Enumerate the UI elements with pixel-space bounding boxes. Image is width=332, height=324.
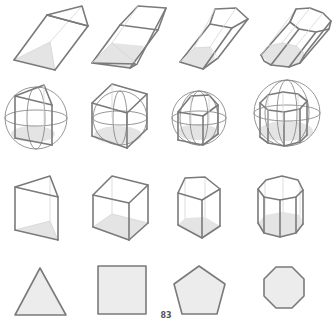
page-number: 83	[0, 311, 332, 320]
triangular-prism-in-sphere	[5, 85, 67, 149]
geometric-solids-figure	[0, 0, 332, 324]
oblique-octagonal-prism	[261, 8, 331, 67]
oblique-triangular-prism	[14, 6, 88, 70]
triangle-base	[15, 268, 66, 315]
square-base	[98, 266, 146, 314]
right-pentagonal-prism	[178, 177, 220, 238]
octagon-base	[264, 267, 304, 308]
right-octagonal-prism	[258, 176, 303, 237]
oblique-square-prism	[92, 6, 166, 68]
cube-in-sphere	[92, 84, 147, 148]
right-triangular-prism	[15, 176, 58, 240]
right-cube	[93, 176, 148, 240]
octagonal-prism-in-sphere	[254, 80, 320, 146]
pentagonal-prism-in-sphere	[172, 91, 226, 145]
oblique-pentagonal-prism	[180, 8, 248, 69]
pentagon-base	[174, 266, 225, 314]
